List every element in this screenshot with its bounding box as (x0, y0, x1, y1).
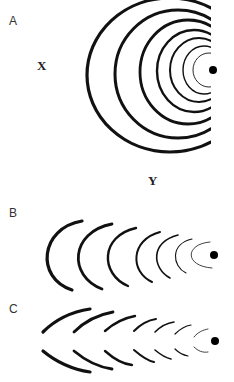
panel-c-arcs (43, 309, 208, 372)
source-dot-c (211, 337, 219, 345)
source-dot-b (210, 251, 218, 259)
wave-diagram (0, 0, 234, 382)
panel-a-arcs (87, 0, 234, 152)
panel-b-arcs (47, 221, 212, 290)
source-dot-a (209, 66, 217, 74)
